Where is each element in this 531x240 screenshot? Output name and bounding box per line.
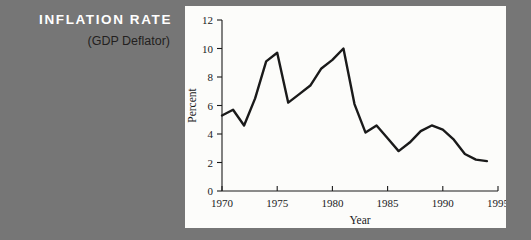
x-tick-label: 1975 (266, 197, 289, 209)
y-tick-label: 10 (202, 43, 214, 55)
x-tick-label: 1990 (432, 197, 455, 209)
chart-panel: 024681012197019751980198519901995YearPer… (185, 6, 506, 228)
x-tick-label: 1995 (487, 197, 506, 209)
data-series-line (222, 49, 487, 162)
y-tick-label: 0 (208, 185, 214, 197)
y-tick-label: 8 (208, 71, 214, 83)
line-chart: 024681012197019751980198519901995YearPer… (185, 6, 506, 228)
y-tick-label: 4 (208, 128, 214, 140)
x-tick-label: 1985 (377, 197, 400, 209)
x-tick-label: 1980 (321, 197, 344, 209)
figure-title: INFLATION RATE (0, 12, 172, 28)
x-axis-title: Year (349, 214, 370, 226)
y-axis-title: Percent (186, 87, 198, 122)
y-tick-label: 2 (208, 157, 214, 169)
y-tick-label: 6 (208, 100, 214, 112)
figure-caption: INFLATION RATE (GDP Deflator) (0, 12, 180, 49)
x-tick-label: 1970 (211, 197, 234, 209)
y-tick-label: 12 (202, 14, 213, 26)
figure-subtitle: (GDP Deflator) (0, 33, 172, 49)
figure-root: INFLATION RATE (GDP Deflator) 0246810121… (0, 0, 531, 240)
